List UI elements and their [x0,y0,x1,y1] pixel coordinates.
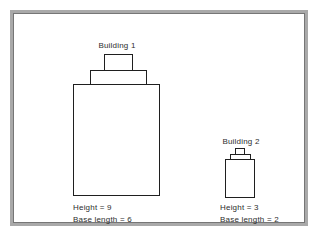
diagram-canvas: Building 1 Height = 9 Base length = 6 Bu… [0,0,320,236]
building2-base-length-label: Base length = 2 [220,214,279,226]
diagram-frame: Building 1 Height = 9 Base length = 6 Bu… [10,10,308,226]
building1-top-tier [104,54,133,71]
building1-height-label: Height = 9 [73,202,132,214]
building2-body [225,159,255,198]
building1-label: Building 1 [72,41,162,50]
building1-stats: Height = 9 Base length = 6 [73,202,132,225]
building2-stats: Height = 3 Base length = 2 [220,202,279,225]
building2-height-label: Height = 3 [220,202,279,214]
building1-body [73,84,160,196]
building2-label: Building 2 [211,137,271,146]
building1-middle-tier [90,70,147,85]
building1-base-length-label: Base length = 6 [73,214,132,226]
